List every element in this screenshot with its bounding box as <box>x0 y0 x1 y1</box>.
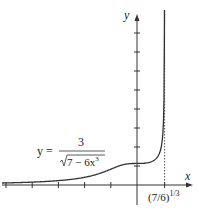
y-axis-arrow-icon <box>135 14 140 21</box>
asymptote-label: (7/6)1/3 <box>148 189 180 204</box>
y-axis-label: y <box>123 8 130 22</box>
function-graph: x y (7/6)1/3 y = 3 7 − 6x3 <box>0 0 199 213</box>
formula-radicand: 7 − 6x3 <box>67 155 99 168</box>
x-axis-arrow-icon <box>186 183 193 188</box>
formula-numerator: 3 <box>78 135 84 149</box>
formula-annotation: y = 3 7 − 6x3 <box>37 135 105 168</box>
formula-lhs: y = <box>37 144 53 158</box>
x-axis-label: x <box>184 169 191 183</box>
